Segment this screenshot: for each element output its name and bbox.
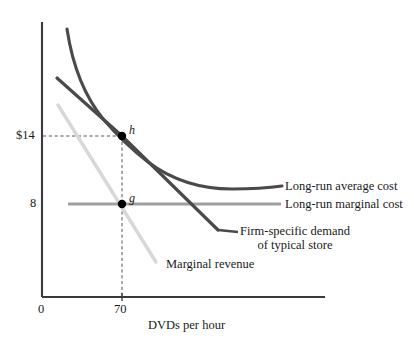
economics-chart-figure: $14 8 0 70 DVDs per hour h g Long-run av… [0, 0, 414, 342]
long-run-average-cost-curve [67, 29, 282, 189]
series-label-marginal-revenue: Marginal revenue [166, 257, 254, 271]
demand-label-leader-line [218, 230, 238, 232]
series-label-long-run-average-cost: Long-run average cost [285, 179, 397, 193]
x-tick-label-quantity: 70 [114, 302, 127, 316]
series-label-firm-specific-demand-line1: Firm-specific demand [240, 224, 350, 238]
series-label-long-run-marginal-cost: Long-run marginal cost [285, 197, 403, 211]
x-tick-label-origin: 0 [38, 302, 44, 316]
y-tick-label-cost: 8 [30, 196, 36, 210]
point-h-marker [118, 132, 126, 140]
point-g-marker [118, 200, 126, 208]
x-axis-title: DVDs per hour [148, 318, 225, 332]
chart-canvas [0, 0, 414, 342]
point-label-g: g [129, 192, 135, 205]
marginal-revenue-line [58, 105, 156, 262]
point-label-h: h [129, 124, 135, 137]
series-label-firm-specific-demand: Firm-specific demand of typical store [240, 224, 350, 252]
y-tick-label-price: $14 [16, 128, 35, 142]
series-label-firm-specific-demand-line2: of typical store [240, 238, 350, 252]
